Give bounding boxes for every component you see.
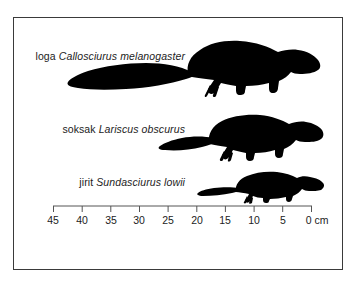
scale-tick-0-with-unit: 0 cm	[306, 214, 329, 226]
squirrel-silhouette-icon-jirit	[196, 170, 326, 204]
scale-tick-40: 40	[76, 214, 88, 226]
scale-tick-45: 45	[47, 214, 59, 226]
scale-tick-5: 5	[280, 214, 286, 226]
species-scientific-name-jirit: Sundasciurus lowii	[96, 176, 185, 188]
scale-tick-labels: 45 40 35 30 25 20 15 10 5 0 cm	[14, 214, 342, 230]
scale-tick-35: 35	[105, 214, 117, 226]
figure-frame: loga Callosciurus melanogaster soksak	[13, 17, 343, 270]
scale-tick-25: 25	[162, 214, 174, 226]
scale-tick-10: 10	[248, 214, 260, 226]
scale-tick-20: 20	[191, 214, 203, 226]
species-common-name-jirit: jirit	[79, 176, 96, 188]
species-row-jirit: jirit Sundasciurus lowii	[14, 166, 342, 206]
species-common-name-loga: loga	[35, 50, 58, 62]
squirrel-silhouette-icon-soksak	[154, 112, 326, 162]
species-label-jirit: jirit Sundasciurus lowii	[79, 176, 185, 188]
plot-area: loga Callosciurus melanogaster soksak	[14, 18, 342, 269]
squirrel-silhouette-icon-loga	[64, 38, 324, 100]
species-row-soksak: soksak Lariscus obscurus	[14, 106, 342, 158]
scale-tick-15: 15	[219, 214, 231, 226]
species-row-loga: loga Callosciurus melanogaster	[14, 38, 342, 98]
scale-tick-30: 30	[133, 214, 145, 226]
species-common-name-soksak: soksak	[62, 123, 98, 135]
